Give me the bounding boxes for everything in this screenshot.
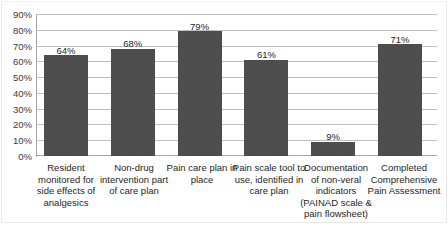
gridline-70 [36, 46, 437, 47]
x-axis-label-resident-monitored-side-effects: Resident monitored for side effects of a… [28, 162, 104, 208]
bar-pain-care-plan-in-place[interactable] [178, 31, 222, 156]
bar-value-label-2: 68% [111, 39, 155, 49]
y-tick-label-70: 70% [0, 42, 32, 52]
x-axis-label-line: Comprehensive [362, 174, 446, 186]
bar-value-label-5: 9% [311, 132, 355, 142]
bar-chart: 90% 80% 70% 60% 50% 40% 30% 20% 10% 0% 6… [0, 0, 448, 226]
gridline-60 [36, 61, 437, 62]
x-axis-label-line: Pain Assessment [362, 185, 446, 197]
x-axis-label-line: pain flowsheet) [294, 208, 378, 220]
bar-documentation-non-verbal-indicators[interactable] [311, 142, 355, 156]
y-tick-label-60: 60% [0, 57, 32, 67]
x-axis-label-completed-comprehensive-pain-assessment: Completed Comprehensive Pain Assessment [362, 162, 446, 197]
gridline-40 [36, 93, 437, 94]
y-tick-label-80: 80% [0, 26, 32, 36]
y-tick-label-30: 30% [0, 105, 32, 115]
plot-area [36, 14, 437, 156]
gridline-80 [36, 30, 437, 31]
x-axis-label-line: side effects of [28, 185, 104, 197]
bar-non-drug-intervention[interactable] [111, 49, 155, 156]
x-axis-label-line: monitored for [28, 174, 104, 186]
bar-pain-scale-tool[interactable] [244, 60, 288, 156]
bar-value-label-4: 61% [244, 50, 288, 60]
x-axis-label-line: Completed [362, 162, 446, 174]
gridline-30 [36, 109, 437, 110]
gridline-50 [36, 77, 437, 78]
gridline-baseline-0 [36, 155, 437, 156]
x-axis-label-line: Resident [28, 162, 104, 174]
bar-resident-monitored-side-effects[interactable] [44, 55, 88, 156]
bar-completed-comprehensive-pain-assessment[interactable] [378, 44, 422, 156]
x-axis-label-line: of care plan [94, 185, 174, 197]
y-tick-label-50: 50% [0, 73, 32, 83]
gridline-20 [36, 124, 437, 125]
gridline-90 [36, 14, 437, 15]
gridline-10 [36, 140, 437, 141]
y-tick-label-0: 0% [0, 152, 32, 162]
x-axis-label-line: (PAINAD scale & [294, 197, 378, 209]
y-tick-label-40: 40% [0, 89, 32, 99]
y-tick-label-20: 20% [0, 120, 32, 130]
x-axis-label-line: analgesics [28, 197, 104, 209]
y-tick-label-10: 10% [0, 136, 32, 146]
bar-value-label-3: 79% [178, 22, 222, 32]
bar-value-label-1: 64% [44, 46, 88, 56]
bar-value-label-6: 71% [378, 35, 422, 45]
y-tick-label-90: 90% [0, 10, 32, 20]
